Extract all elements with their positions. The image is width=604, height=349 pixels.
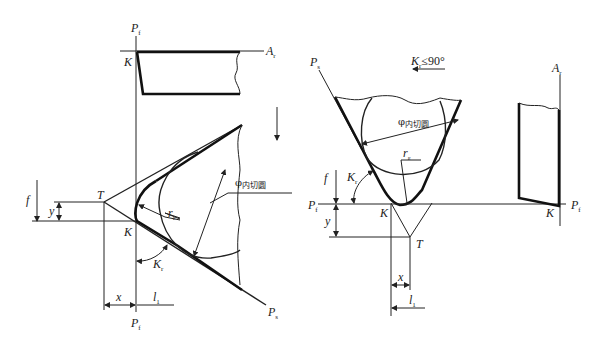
label-x: x bbox=[115, 290, 122, 304]
label-y: y bbox=[48, 204, 55, 218]
label-k: K bbox=[123, 225, 133, 239]
r-leader-line bbox=[401, 160, 421, 203]
tool-break-line bbox=[235, 52, 240, 94]
label-x: x bbox=[397, 270, 404, 284]
label-ar: Ar bbox=[265, 44, 276, 60]
tool-section-outline bbox=[137, 52, 240, 94]
tool-break-line-right bbox=[519, 103, 559, 110]
tool-section-outline-right bbox=[519, 103, 559, 206]
label-l1: l1 bbox=[153, 290, 160, 306]
label-kr: Kr bbox=[346, 170, 358, 186]
label-pf-bottom: Pf bbox=[130, 316, 141, 332]
label-r-epsilon: rε bbox=[403, 146, 411, 162]
label-t: T bbox=[416, 237, 424, 251]
label-f: f bbox=[324, 171, 329, 185]
label-k: K bbox=[379, 206, 389, 220]
label-pf-left: Pf bbox=[307, 198, 318, 214]
workpiece-top-wavy bbox=[335, 96, 461, 104]
label-t: T bbox=[97, 188, 105, 202]
label-ar: Ar bbox=[551, 61, 562, 77]
label-kr-condition: Kr≤90° bbox=[410, 54, 445, 70]
label-phi-inscribed-circle: φ内切圆 bbox=[398, 116, 429, 129]
label-ps: Ps bbox=[309, 55, 320, 71]
main-cutting-edge bbox=[135, 181, 242, 290]
tool-geometry-diagram: Pf Ar K T K f y rε Kr φ内切圆 x l1 Pf Ps Kr… bbox=[0, 0, 604, 349]
label-ps: Ps bbox=[267, 305, 278, 321]
label-k-top: K bbox=[123, 55, 133, 69]
label-y: y bbox=[324, 214, 331, 228]
kr-angle-arc bbox=[137, 245, 167, 261]
label-pf-top: Pf bbox=[130, 21, 141, 37]
label-l1: l1 bbox=[409, 293, 416, 309]
diagram-svg: Pf Ar K T K f y rε Kr φ内切圆 x l1 Pf Ps Kr… bbox=[0, 0, 604, 349]
label-kr: Kr bbox=[152, 257, 164, 273]
radius-arrow bbox=[139, 205, 165, 217]
diameter-dimension-arrow bbox=[194, 170, 225, 256]
tip-triangle bbox=[391, 203, 432, 237]
label-phi-inscribed-circle: φ内切圆 bbox=[235, 177, 266, 190]
label-pf-right: Pf bbox=[570, 198, 581, 214]
label-k-right: K bbox=[545, 206, 555, 220]
right-panel: Kr≤90° Ps Ar φ内 bbox=[307, 54, 581, 316]
workpiece-break-line bbox=[238, 125, 242, 285]
label-f: f bbox=[26, 193, 31, 207]
label-r-epsilon: rε bbox=[168, 206, 176, 222]
secondary-edge-line bbox=[104, 125, 242, 202]
left-panel: Pf Ar K T K f y rε Kr φ内切圆 x l1 Pf Ps bbox=[26, 21, 292, 332]
phi-leader-line bbox=[210, 193, 292, 203]
kr-angle-arc bbox=[354, 171, 373, 203]
